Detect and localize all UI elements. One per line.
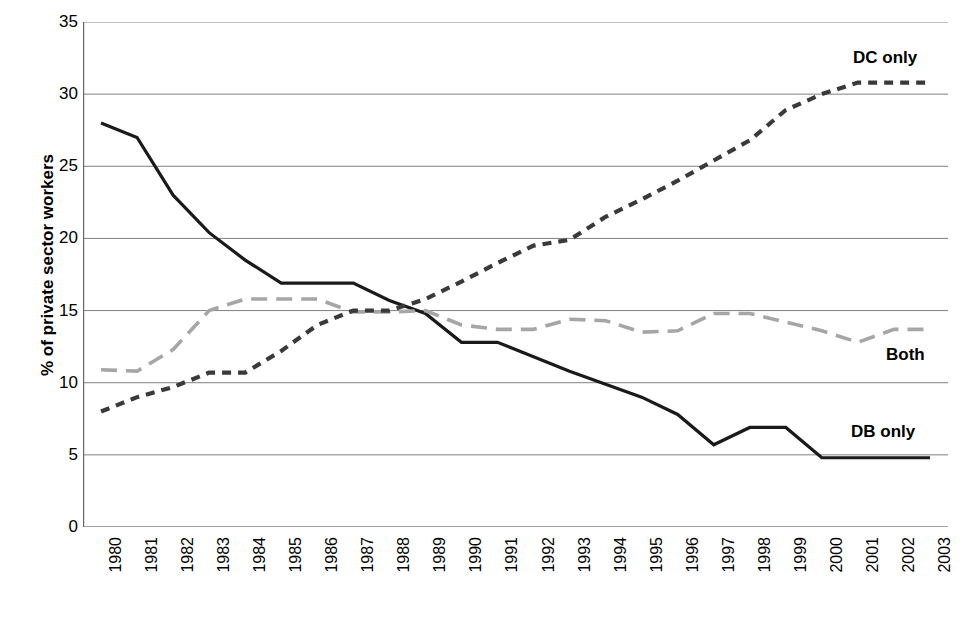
x-tick-label: 2003 [936, 537, 954, 573]
x-tick-label: 1997 [720, 537, 738, 573]
x-tick-label: 1996 [684, 537, 702, 573]
series-line-both [101, 299, 930, 371]
x-axis-tick-labels: 1980198119821983198419851986198719881989… [83, 527, 948, 619]
series-label-both: Both [886, 345, 925, 365]
x-tick-label: 1991 [503, 537, 521, 573]
x-tick-label: 1989 [431, 537, 449, 573]
x-tick-label: 2000 [828, 537, 846, 573]
y-tick-label: 20 [59, 228, 78, 248]
x-tick-label: 1985 [287, 537, 305, 573]
x-tick-label: 1990 [467, 537, 485, 573]
x-tick-label: 1999 [792, 537, 810, 573]
x-tick-label: 1980 [107, 537, 125, 573]
y-tick-label: 0 [69, 517, 78, 537]
x-tick-label: 1982 [179, 537, 197, 573]
x-tick-label: 1995 [648, 537, 666, 573]
x-tick-label: 2001 [864, 537, 882, 573]
y-tick-label: 10 [59, 373, 78, 393]
y-tick-label: 30 [59, 84, 78, 104]
y-tick-label: 15 [59, 301, 78, 321]
series-line-dc-only [101, 83, 930, 412]
series-label-db-only: DB only [851, 422, 915, 442]
x-tick-label: 1987 [359, 537, 377, 573]
x-tick-label: 1986 [323, 537, 341, 573]
plot-svg [83, 22, 948, 527]
x-tick-label: 1988 [395, 537, 413, 573]
x-tick-label: 2002 [900, 537, 918, 573]
chart-container: % of private sector workers 353025201510… [0, 0, 966, 619]
x-tick-label: 1994 [612, 537, 630, 573]
series-label-dc-only: DC only [853, 48, 917, 68]
x-tick-label: 1998 [756, 537, 774, 573]
y-tick-label: 25 [59, 156, 78, 176]
y-tick-label: 35 [59, 12, 78, 32]
x-tick-label: 1984 [251, 537, 269, 573]
y-axis-tick-labels: 35302520151050 [34, 0, 78, 619]
x-tick-label: 1993 [576, 537, 594, 573]
series-line-db-only [101, 123, 930, 458]
plot-area [83, 22, 948, 527]
x-tick-label: 1992 [540, 537, 558, 573]
x-tick-label: 1983 [215, 537, 233, 573]
y-tick-label: 5 [69, 445, 78, 465]
x-tick-label: 1981 [143, 537, 161, 573]
